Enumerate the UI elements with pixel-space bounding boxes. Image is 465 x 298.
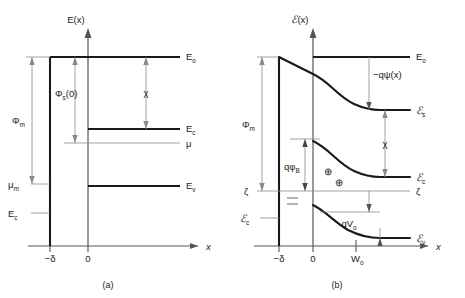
panel-a-phi-s-arrow-up (72, 57, 77, 65)
panel-b-qvo-arrow-up (377, 238, 382, 246)
panel-a-chi-arrow-up (143, 57, 148, 65)
panel-b-valence-band-label: ℰv (416, 232, 426, 246)
panel-b-positive-charge-2: ⊕ (335, 177, 343, 188)
panel-b-caption: (b) (332, 280, 343, 290)
panel-b-valence-band-curve (313, 205, 410, 238)
panel-b-vacuum-semi-label: ℰs (416, 104, 426, 118)
panel-b-fermi-label-left: ζ (244, 186, 249, 197)
panel-b-tick-label-minus-delta: −δ (274, 253, 285, 264)
panel-a-chi-label: χ (144, 87, 149, 98)
panel-b-metal-bottom-label: ℰc (240, 212, 250, 226)
panel-b-barrier-arrow-down (302, 183, 307, 191)
panel-b-chi-arrow-down (382, 169, 387, 177)
panel-a-phi-m-arrow-up (29, 57, 34, 65)
panel-a-phi-m-arrow-down (29, 176, 34, 184)
panel-a-tick-label-minus-delta: −δ (45, 253, 56, 264)
panel-b-y-axis-arrowhead (310, 28, 317, 38)
panel-a-caption: (a) (103, 280, 114, 290)
panel-b-x-axis-label: x (435, 241, 442, 252)
panel-b-tick-label-zero: 0 (310, 253, 315, 264)
panel-a-metal-fermi-label: μm (8, 179, 19, 192)
panel-b-vacuum-level-curve (279, 57, 410, 110)
panel-a-tick-label-zero: 0 (85, 253, 90, 264)
panel-b-band-bending-label: −qψ(x) (373, 69, 402, 80)
panel-b-phi-m-label: Φm (242, 119, 255, 132)
panel-a-diagram: E(x) x −δ 0 Eo Ec μ Ev μm Ec Φm Φs(0) χ … (0, 0, 233, 298)
panel-b-positive-charge-1: ⊕ (324, 166, 332, 177)
panel-a-valence-band-label: Ev (186, 180, 196, 193)
panel-a-y-axis-arrowhead (85, 28, 92, 38)
panel-a-metal-bottom-label: Ec (8, 208, 18, 221)
panel-b-chi-arrow-up (382, 110, 387, 118)
panel-b-tick-label-w-o: Wo (351, 253, 364, 266)
panel-b-barrier-arrow-up (302, 139, 307, 147)
panel-b-chi-label: χ (383, 138, 388, 149)
panel-a-fermi-level-label: μ (186, 138, 191, 149)
panel-a-x-axis-arrowhead (190, 243, 198, 249)
panel-b-phi-m-arrow-down (259, 183, 264, 191)
panel-b-conduction-band-label: ℰc (416, 171, 426, 185)
panel-a-phi-m-label: Φm (12, 115, 25, 128)
panel-a-chi-arrow-down (143, 121, 148, 129)
panel-a-y-axis-label: E(x) (67, 14, 84, 25)
panel-b-fermi-label-right: ζ (416, 186, 421, 197)
panel-b-vacuum-level-label: Eo (416, 51, 426, 64)
panel-a-vacuum-level-label: Eo (186, 51, 196, 64)
panel-b-diagram: ℰ(x) x −δ 0 Wo Eo ℰs ℰc ζ ζ ℰv ℰc Φm −qψ… (232, 0, 465, 298)
panel-b-barrier-height-label: qφB (284, 161, 300, 174)
panel-b-y-axis-label: ℰ(x) (291, 13, 308, 25)
panel-a-conduction-band-label: Ec (186, 123, 196, 136)
figure-container: E(x) x −δ 0 Eo Ec μ Ev μm Ec Φm Φs(0) χ … (0, 0, 465, 298)
panel-b-built-in-potential-label: qVo (341, 218, 357, 231)
panel-a-phi-s-arrow-down (72, 135, 77, 143)
panel-b-qvo-arrow-down (366, 204, 371, 212)
panel-a-x-axis-label: x (205, 241, 212, 252)
panel-b-phi-m-arrow-up (259, 57, 264, 65)
panel-a-phi-s-label: Φs(0) (55, 88, 77, 101)
